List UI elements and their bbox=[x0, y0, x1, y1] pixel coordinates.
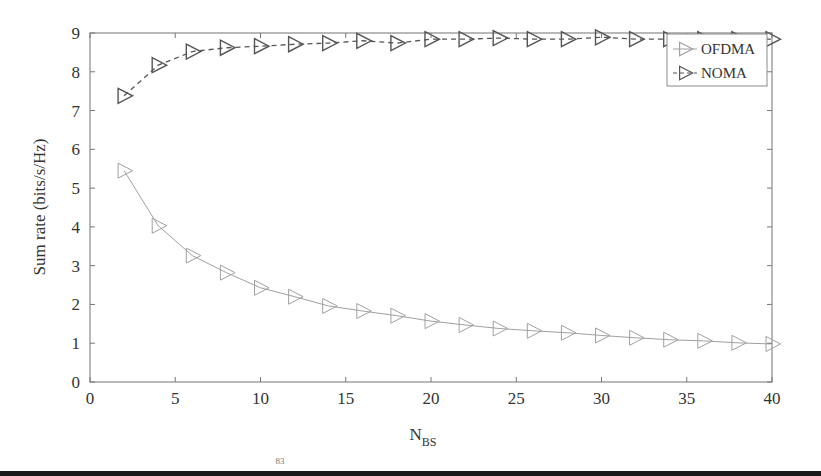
x-axis-label: NBS bbox=[410, 425, 437, 449]
legend-label: OFDMA bbox=[701, 41, 755, 57]
x-axis-label-main: N bbox=[410, 425, 422, 444]
x-tick-label: 10 bbox=[252, 389, 269, 408]
x-tick-label: 40 bbox=[764, 389, 781, 408]
y-tick-label: 7 bbox=[72, 102, 81, 121]
y-tick-label: 4 bbox=[72, 218, 81, 237]
page-number: 83 bbox=[276, 456, 286, 466]
y-tick-label: 3 bbox=[72, 257, 81, 276]
y-tick-label: 1 bbox=[72, 334, 81, 353]
x-tick-label: 0 bbox=[86, 389, 95, 408]
bottom-border-bar bbox=[0, 471, 821, 476]
x-tick-label: 35 bbox=[678, 389, 695, 408]
y-tick-label: 8 bbox=[72, 63, 81, 82]
y-tick-label: 9 bbox=[72, 24, 81, 43]
x-tick-label: 30 bbox=[593, 389, 610, 408]
legend: OFDMANOMA bbox=[667, 34, 767, 86]
x-tick-label: 20 bbox=[423, 389, 440, 408]
sum-rate-chart: 05101520253035400123456789 OFDMANOMA Sum… bbox=[0, 0, 821, 476]
y-tick-label: 2 bbox=[72, 295, 81, 314]
y-tick-label: 6 bbox=[72, 140, 81, 159]
y-tick-label: 5 bbox=[72, 179, 81, 198]
x-tick-label: 25 bbox=[508, 389, 525, 408]
x-tick-label: 15 bbox=[337, 389, 354, 408]
x-axis-label-subscript: BS bbox=[422, 435, 437, 449]
x-tick-label: 5 bbox=[171, 389, 180, 408]
y-axis-label: Sum rate (bits/s/Hz) bbox=[30, 139, 49, 276]
legend-label: NOMA bbox=[701, 65, 747, 81]
y-tick-label: 0 bbox=[72, 373, 81, 392]
